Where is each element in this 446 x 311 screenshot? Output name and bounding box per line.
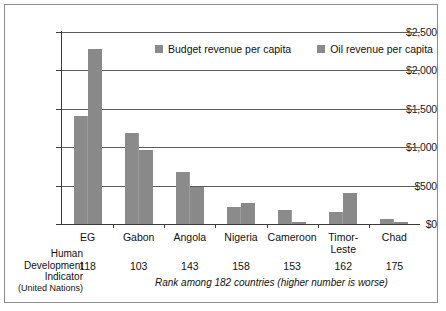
category-label: Cameroon: [267, 231, 318, 243]
y-axis-tick-mark: [56, 224, 62, 225]
x-axis-tick-mark: [369, 224, 370, 228]
bar-oil: [394, 222, 408, 224]
chart-frame: $0$500$1,000$1,500$2,000$2,500 EGGabonAn…: [4, 4, 438, 303]
bar-oil: [241, 203, 255, 225]
hdi-rank-value: 162: [318, 260, 369, 272]
bar-group: [125, 32, 153, 224]
category-label: Chad: [369, 231, 420, 243]
rank-note: Rank among 182 countries (higher number …: [155, 277, 388, 288]
bar-oil: [88, 49, 102, 224]
bar-budget: [278, 210, 292, 224]
bar-group: [278, 32, 306, 224]
bar-budget: [380, 219, 394, 224]
bar-group: [176, 32, 204, 224]
hdi-caption: Human Development Indicator (United Nati…: [9, 248, 83, 294]
bar-group: [227, 32, 255, 224]
hdi-rank-value: 175: [369, 260, 420, 272]
bar-budget: [329, 212, 343, 224]
bar-oil: [190, 187, 204, 224]
legend-swatch-oil: [317, 45, 325, 53]
bar-group: [74, 32, 102, 224]
x-axis-tick-mark: [318, 224, 319, 228]
x-axis-tick-mark: [113, 224, 114, 228]
hdi-rank-value: 143: [164, 260, 215, 272]
legend-item-oil: Oil revenue per capita: [317, 43, 433, 55]
hdi-caption-line-3: Indicator: [9, 271, 83, 283]
category-label: EG: [62, 231, 113, 243]
bar-group: [380, 32, 408, 224]
category-label: Gabon: [113, 231, 164, 243]
bar-oil: [292, 222, 306, 224]
category-label: Angola: [164, 231, 215, 243]
x-axis-tick-mark: [267, 224, 268, 228]
hdi-caption-line-4: (United Nations): [9, 283, 83, 295]
hdi-rank-value: 158: [215, 260, 266, 272]
x-axis-tick-mark: [215, 224, 216, 228]
x-axis-tick-mark: [164, 224, 165, 228]
x-axis-line: [62, 224, 420, 225]
bar-budget: [227, 207, 241, 224]
hdi-rank-value: 103: [113, 260, 164, 272]
category-label: Timor-Leste: [318, 231, 369, 255]
bar-group: [329, 32, 357, 224]
hdi-caption-line-1: Human: [9, 248, 83, 260]
legend-item-budget: Budget revenue per capita: [155, 43, 291, 55]
bar-oil: [343, 193, 357, 224]
hdi-rank-value: 153: [267, 260, 318, 272]
bar-budget: [74, 116, 88, 224]
bar-budget: [176, 172, 190, 224]
plot-area: [62, 32, 420, 224]
bar-budget: [125, 133, 139, 224]
chart-legend: Budget revenue per capita Oil revenue pe…: [155, 43, 433, 55]
bar-oil: [139, 150, 153, 224]
legend-label-oil: Oil revenue per capita: [330, 43, 433, 55]
legend-label-budget: Budget revenue per capita: [168, 43, 291, 55]
hdi-caption-line-2: Development: [9, 260, 83, 272]
legend-swatch-budget: [155, 45, 163, 53]
category-label: Nigeria: [215, 231, 266, 243]
